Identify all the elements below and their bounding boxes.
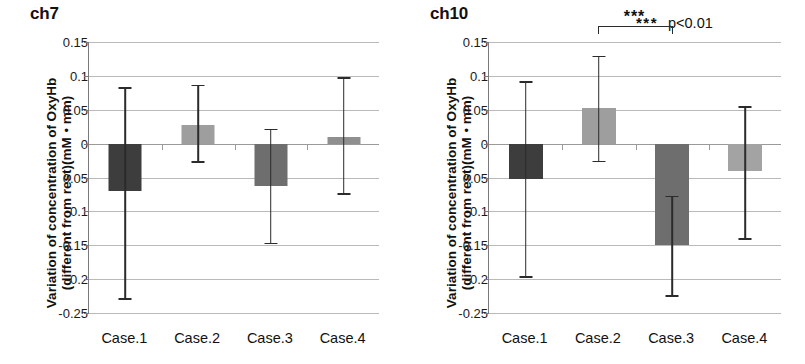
gridline xyxy=(489,76,781,77)
y-axis-tick-label: -0.1 xyxy=(40,204,88,219)
x-axis-label-case-2: Case.2 xyxy=(174,330,220,346)
y-axis-tick xyxy=(484,144,489,145)
y-axis-tick-label: -0.25 xyxy=(40,306,88,321)
y-axis-tick xyxy=(84,178,89,179)
x-axis-minor-tick xyxy=(307,144,308,150)
x-axis-minor-tick xyxy=(162,144,163,150)
x-axis-labels-ch10: Case.1Case.2Case.3Case.4 xyxy=(402,330,805,354)
error-bar-cap xyxy=(119,298,132,300)
error-bar-cap xyxy=(519,276,532,278)
gridline xyxy=(489,42,781,43)
gridline xyxy=(489,110,781,111)
x-axis-labels-ch7: Case.1Case.2Case.3Case.4 xyxy=(0,330,402,354)
y-axis-tick xyxy=(484,110,489,111)
error-bar xyxy=(525,81,527,276)
gridline xyxy=(89,211,379,212)
y-axis-tick-label: -0.2 xyxy=(440,272,488,287)
y-axis-tick-label: 0.15 xyxy=(440,35,488,50)
error-bar-cap xyxy=(666,295,679,297)
x-axis-label-case-4: Case.4 xyxy=(721,330,767,346)
y-axis-tick-label: 0.05 xyxy=(40,102,88,117)
gridline xyxy=(489,313,781,314)
x-axis-label-case-4: Case.4 xyxy=(320,330,366,346)
figure-container: ch7 Variation of concentration of OxyHb … xyxy=(0,0,805,364)
error-bar xyxy=(598,56,600,161)
x-axis-label-case-1: Case.1 xyxy=(101,330,147,346)
y-axis-tick-label: -0.1 xyxy=(440,204,488,219)
x-axis-minor-tick xyxy=(636,144,637,150)
gridline xyxy=(89,42,379,43)
error-bar-cap xyxy=(337,193,350,195)
gridline xyxy=(489,211,781,212)
y-axis-tick xyxy=(484,211,489,212)
x-axis-minor-tick xyxy=(709,144,710,150)
y-axis-tick-label: -0.15 xyxy=(440,238,488,253)
plot-area-ch7 xyxy=(88,42,379,313)
gridline xyxy=(489,245,781,246)
error-bar-cap xyxy=(264,243,277,245)
significance-stars: *** xyxy=(624,8,646,26)
y-axis-tick-label: 0.05 xyxy=(440,102,488,117)
chart-panel-ch10: ch10 Variation of concentration of OxyHb… xyxy=(402,0,805,364)
y-axis-tick xyxy=(484,279,489,280)
y-axis-tick xyxy=(84,279,89,280)
error-bar-cap xyxy=(192,161,205,163)
y-axis-tick-label: 0 xyxy=(40,136,88,151)
y-tick-labels-ch10: 0.150.10.0500.05-0.1-0.15-0.2-0.25 xyxy=(436,0,488,364)
error-bar xyxy=(671,196,673,296)
gridline xyxy=(89,76,379,77)
y-axis-tick xyxy=(84,42,89,43)
y-axis-tick-label: -0.15 xyxy=(40,238,88,253)
y-axis-tick xyxy=(484,76,489,77)
x-axis-minor-tick xyxy=(235,144,236,150)
y-axis-tick-label: 0.05 xyxy=(40,170,88,185)
error-bar xyxy=(270,129,272,243)
y-axis-tick xyxy=(84,76,89,77)
y-axis-tick-label: 0.1 xyxy=(40,68,88,83)
error-bar-cap xyxy=(739,238,752,240)
error-bar xyxy=(125,87,127,298)
error-bar-cap xyxy=(119,87,132,89)
error-bar xyxy=(343,77,345,193)
y-axis-tick-label: -0.2 xyxy=(40,272,88,287)
y-axis-tick xyxy=(84,313,89,314)
y-axis-tick xyxy=(484,42,489,43)
y-axis-tick xyxy=(84,211,89,212)
y-axis-tick-label: -0.25 xyxy=(440,306,488,321)
y-axis-tick-label: 0 xyxy=(440,136,488,151)
y-axis-tick xyxy=(484,313,489,314)
y-axis-tick xyxy=(84,144,89,145)
y-axis-tick xyxy=(84,245,89,246)
error-bar-cap xyxy=(592,161,605,163)
error-bar-cap xyxy=(192,85,205,87)
gridline xyxy=(89,313,379,314)
error-bar-cap xyxy=(666,196,679,198)
y-axis-tick-label: 0.15 xyxy=(40,35,88,50)
gridline xyxy=(89,279,379,280)
chart-panel-ch7: ch7 Variation of concentration of OxyHb … xyxy=(0,0,402,364)
y-axis-tick xyxy=(484,178,489,179)
y-tick-labels-ch7: 0.150.10.0500.05-0.1-0.15-0.2-0.25 xyxy=(36,0,88,364)
significance-bracket xyxy=(598,26,673,34)
error-bar-cap xyxy=(337,77,350,79)
y-axis-tick xyxy=(484,245,489,246)
x-axis-label-case-1: Case.1 xyxy=(502,330,548,346)
y-axis-tick-label: 0.1 xyxy=(440,68,488,83)
x-axis-label-case-2: Case.2 xyxy=(575,330,621,346)
error-bar-cap xyxy=(739,106,752,108)
error-bar-cap xyxy=(592,56,605,58)
gridline xyxy=(89,110,379,111)
x-axis-minor-tick xyxy=(562,144,563,150)
error-bar-cap xyxy=(519,81,532,83)
error-bar-cap xyxy=(264,129,277,131)
y-axis-tick-label: 0.05 xyxy=(440,170,488,185)
gridline xyxy=(489,279,781,280)
x-axis-label-case-3: Case.3 xyxy=(247,330,293,346)
error-bar xyxy=(745,106,747,238)
significance-legend-pvalue: p<0.01 xyxy=(668,15,713,31)
plot-area-ch10 xyxy=(488,42,781,313)
x-axis-label-case-3: Case.3 xyxy=(648,330,694,346)
y-axis-tick xyxy=(84,110,89,111)
error-bar xyxy=(197,85,199,162)
gridline xyxy=(89,245,379,246)
